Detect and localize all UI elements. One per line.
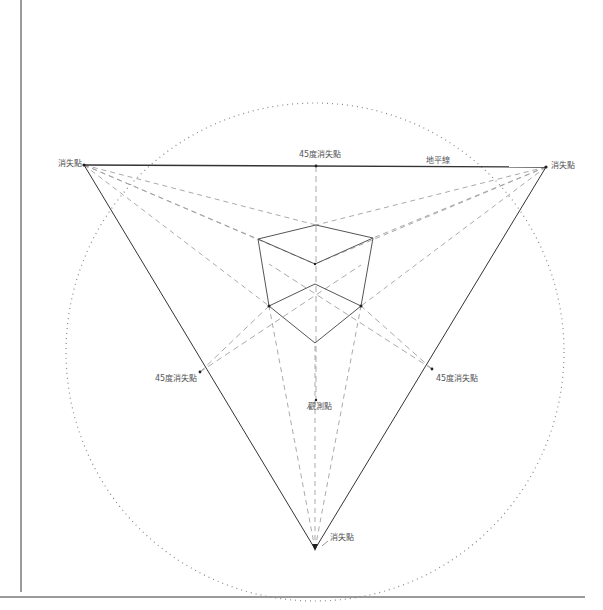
label-horizon: 地平線: [426, 157, 450, 165]
label-vp-left: 消失點: [58, 160, 82, 168]
45deg-construction-lines: [200, 166, 432, 400]
left-vp-construction-lines: [84, 165, 316, 306]
cube: [258, 225, 373, 343]
label-observer: 觀測點: [308, 403, 332, 411]
label-vp-bottom: 消失點: [330, 534, 354, 542]
right-vp-construction-lines: [315, 167, 546, 306]
label-45deg-vp-right: 45度消失點: [436, 375, 478, 383]
diagram-canvas: [0, 0, 603, 610]
label-45deg-vp-left: 45度消失點: [155, 375, 197, 383]
label-45deg-vp-top: 45度消失點: [299, 151, 341, 159]
perspective-diagram: 消失點 消失點 消失點 45度消失點 45度消失點 45度消失點 地平線 觀測點: [0, 0, 603, 610]
label-vp-right: 消失點: [551, 162, 575, 170]
